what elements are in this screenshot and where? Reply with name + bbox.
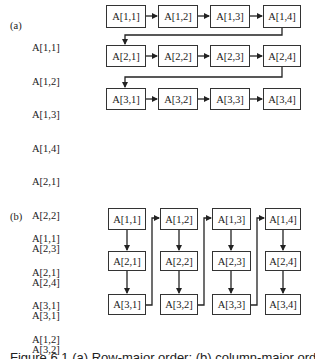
cell-b-1-2: A[1,2] (160, 208, 198, 230)
cell-b-2-4: A[2,4] (265, 251, 301, 271)
cell-b-3-3: A[3,3] (212, 294, 251, 315)
cell-b-2-1: A[2,1] (108, 251, 146, 271)
cell-b-2-3: A[2,3] (212, 251, 251, 271)
figure-caption: Figure 6.1 (a) Row-major order; (b) colu… (10, 350, 315, 359)
cell-b-3-2: A[3,2] (160, 294, 198, 315)
cell-b-1-1: A[1,1] (108, 208, 146, 230)
cell-b-3-1: A[3,1] (108, 294, 146, 315)
cell-b-2-2: A[2,2] (160, 251, 198, 271)
cell-b-3-4: A[3,4] (265, 294, 301, 315)
cell-b-1-4: A[1,4] (265, 208, 301, 230)
cell-b-1-3: A[1,3] (212, 208, 251, 230)
